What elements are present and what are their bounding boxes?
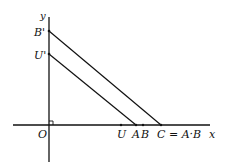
diagram-canvas: y B' U' O U A B C = A·B x (0, 0, 228, 167)
line-uprime-to-a (49, 54, 136, 125)
label-b: B (140, 128, 149, 141)
point-b-prime (48, 30, 51, 33)
label-u-prime: U' (34, 49, 46, 62)
label-u: U (117, 128, 127, 141)
label-c: C = A·B (157, 128, 201, 141)
y-axis-label: y (39, 10, 46, 21)
point-u-prime (48, 53, 51, 56)
label-b-prime: B' (33, 26, 45, 39)
origin-label: O (38, 128, 47, 141)
label-a: A (131, 128, 140, 141)
point-a (135, 124, 137, 126)
point-u (120, 124, 122, 126)
x-axis-label: x (209, 128, 216, 141)
point-c (160, 124, 162, 126)
point-b (142, 124, 144, 126)
line-bprime-to-c (49, 31, 161, 125)
